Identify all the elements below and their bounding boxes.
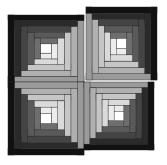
block-center (41, 113, 51, 123)
log-strip (98, 20, 145, 26)
log-strip (21, 27, 71, 33)
block-center (117, 38, 127, 48)
log-strip (84, 144, 154, 150)
log-strip (64, 27, 71, 71)
log-strip (86, 74, 157, 80)
log-strip (84, 82, 154, 88)
log-strip (8, 15, 15, 82)
log-strip (133, 26, 139, 61)
log-strip (92, 13, 151, 19)
log-strip (64, 95, 71, 143)
log-strip (142, 88, 148, 144)
log-strip (8, 82, 84, 88)
log-strip (96, 132, 142, 138)
log-strip (130, 100, 136, 133)
log-strip (15, 70, 78, 76)
log-strip (96, 94, 102, 139)
log-strip (21, 95, 28, 143)
log-strip (8, 15, 84, 21)
log-strip (15, 21, 22, 76)
log-strip (86, 7, 92, 80)
log-strip (77, 15, 84, 82)
log-cabin-quilt (0, 0, 167, 165)
log-strip (15, 142, 78, 148)
log-strip (98, 20, 104, 68)
log-strip (28, 101, 35, 136)
log-strip (148, 82, 154, 150)
log-strip (34, 38, 41, 59)
log-strip (92, 13, 98, 73)
log-strip (124, 105, 130, 126)
log-strip (71, 88, 78, 148)
log-strip (34, 107, 41, 130)
log-strip (92, 67, 151, 73)
log-strip (21, 95, 71, 101)
log-strip (71, 21, 78, 76)
log-strip (151, 7, 157, 80)
log-strip (21, 136, 71, 142)
quilt-block-bottom-right (84, 82, 154, 150)
log-strip (15, 88, 78, 94)
log-strip (28, 32, 35, 64)
log-strip (8, 82, 15, 155)
block-center (41, 44, 51, 53)
log-strip (126, 32, 132, 55)
log-strip (8, 76, 84, 82)
log-strip (15, 88, 22, 148)
quilt-block-top-right (86, 7, 157, 80)
log-strip (98, 61, 145, 67)
log-strip (86, 7, 157, 13)
log-strip (90, 88, 148, 94)
log-strip (77, 82, 84, 155)
block-center (114, 111, 124, 120)
log-strip (21, 65, 71, 71)
log-strip (139, 20, 145, 68)
log-strip (8, 149, 84, 155)
log-strip (84, 82, 90, 150)
quilt-block-bottom-left (8, 82, 84, 155)
log-strip (145, 13, 151, 73)
log-strip (136, 94, 142, 139)
quilt-block-top-left (8, 15, 84, 82)
quilt-canvas (0, 0, 167, 165)
log-strip (90, 88, 96, 144)
log-strip (96, 94, 142, 100)
log-strip (90, 138, 148, 144)
log-strip (21, 27, 28, 71)
log-strip (15, 21, 78, 27)
